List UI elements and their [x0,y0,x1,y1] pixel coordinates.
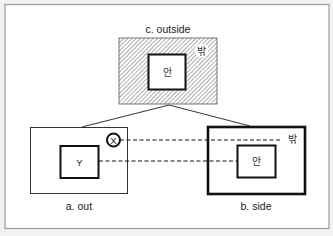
diagram-canvas: c. outside 밖 안 Y X a. out 안 밖 b. side [0,0,333,236]
x-label: X [110,135,117,146]
panel-c-outer-label: 밖 [197,46,206,57]
panel-a-caption: a. out [66,200,92,212]
panel-b-inner-label: 안 [252,156,261,167]
panel-b-caption: b. side [241,200,272,212]
y-label: Y [76,157,83,168]
panel-b-outer-label: 밖 [288,134,297,145]
panel-c-inner-label: 안 [163,67,172,78]
panel-c-caption: c. outside [146,23,191,35]
